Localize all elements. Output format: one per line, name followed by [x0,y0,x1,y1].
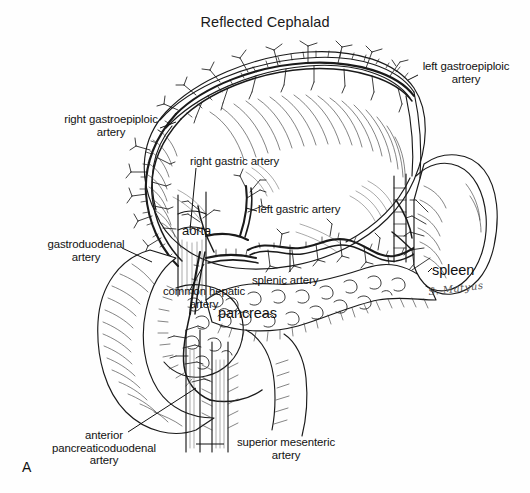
label-anterior-pancreaticoduodenal-artery: anterior pancreaticoduodenal artery [28,429,180,467]
panel-letter: A [22,459,31,475]
artist-signature: S. Matyus [428,280,485,298]
figure-title: Reflected Cephalad [0,14,530,30]
label-pancreas: pancreas [218,305,277,321]
label-right-gastroepiploic-artery: right gastroepiploic artery [54,113,168,138]
label-gastroduodenal-artery: gastroduodenal artery [40,238,132,263]
label-superior-mesenteric-artery: superior mesenteric artery [226,436,346,461]
label-splenic-artery: splenic artery [252,274,318,287]
label-right-gastric-artery: right gastric artery [190,155,279,168]
label-left-gastric-artery: left gastric artery [258,203,340,216]
label-left-gastroepiploic-artery: left gastroepiploic artery [404,60,528,85]
anatomical-figure: Reflected Cephalad .o { fill:#ffffff; st… [0,0,530,493]
label-aorta: aorta [182,224,211,239]
label-spleen: spleen [432,262,474,278]
